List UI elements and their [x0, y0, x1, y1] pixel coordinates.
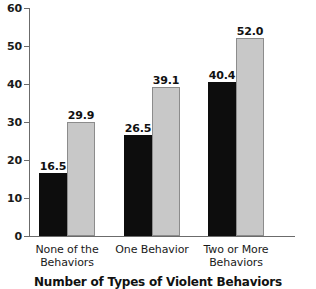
y-tick-label-60: 60	[0, 3, 22, 14]
bar-group1-series1	[39, 173, 67, 236]
category-label-line2: Behaviors	[15, 256, 119, 269]
y-tick-label-30: 30	[0, 117, 22, 128]
category-label-two-or-more-behaviors: Two or More Behaviors	[184, 243, 288, 269]
plot-area	[29, 8, 295, 236]
x-axis-title: Number of Types of Violent Behaviors	[0, 275, 316, 289]
y-tick-label-20: 20	[0, 155, 22, 166]
y-tick-label-50: 50	[0, 41, 22, 52]
bar-group3-series2	[236, 38, 264, 236]
category-label-line1: Two or More	[184, 243, 288, 256]
y-tick-label-0: 0	[0, 231, 22, 242]
bar-value-group2-series1: 26.5	[115, 123, 161, 134]
bar-value-group1-series1: 16.5	[30, 161, 76, 172]
y-tick-label-10: 10	[0, 193, 22, 204]
bar-group2-series2	[152, 87, 180, 236]
bar-value-group1-series2: 29.9	[58, 110, 104, 121]
bar-value-group2-series2: 39.1	[143, 75, 189, 86]
category-label-line2: Behaviors	[184, 256, 288, 269]
bar-group3-series1	[208, 82, 236, 236]
y-tick-mark-0	[24, 236, 29, 237]
bar-value-group3-series2: 52.0	[227, 26, 273, 37]
bar-chart: 0 10 20 30 40 50 60 16.5 29.9 26.5 39.1 …	[0, 0, 316, 289]
x-axis-line	[29, 236, 295, 237]
y-tick-label-40: 40	[0, 79, 22, 90]
bar-group1-series2	[67, 122, 95, 236]
bar-value-group3-series1: 40.4	[199, 70, 245, 81]
bar-group2-series1	[124, 135, 152, 236]
